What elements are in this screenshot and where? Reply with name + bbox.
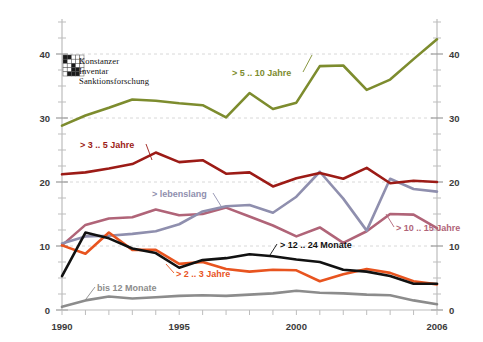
y-axis-left-label-10: 10 <box>39 241 50 252</box>
series-label-bis-12-monate: bis 12 Monate <box>97 283 157 293</box>
logo-cell <box>63 68 67 72</box>
series-leader-10-15-jahre <box>386 214 394 227</box>
y-axis-left-label-0: 0 <box>45 305 50 316</box>
logo-cell <box>71 63 75 67</box>
logo-cell <box>63 72 67 76</box>
logo-line-1: Konstanzer <box>79 56 119 66</box>
logo-cell <box>67 59 71 63</box>
y-axis-right-label-0: 0 <box>449 305 454 316</box>
y-axis-right-label-10: 10 <box>449 241 460 252</box>
series-line-lebenslang <box>62 172 437 244</box>
x-axis-label-1995: 1995 <box>169 321 191 332</box>
series-leader-5-10-jahre <box>303 55 312 72</box>
x-axis-label-2006: 2006 <box>426 321 447 332</box>
logo-cell <box>67 55 71 59</box>
series-leader-lebenslang <box>213 193 221 206</box>
logo-cell <box>67 68 71 72</box>
logo-cell <box>71 59 75 63</box>
series-leader-12-24-monate <box>270 244 277 255</box>
y-axis-left-label-20: 20 <box>39 177 50 188</box>
series-line-bis-12-monate <box>62 291 437 307</box>
logo-line-3: Sanktionsforschung <box>79 76 150 86</box>
series-label-12-24-monate: > 12 .. 24 Monate <box>280 240 352 250</box>
x-axis-label-1990: 1990 <box>51 321 72 332</box>
series-annotations: > 5 .. 10 Jahre> 3 .. 5 Jahre> lebenslan… <box>80 68 460 293</box>
kis-logo: Konstanzer Inventar Sanktionsforschung <box>63 55 150 86</box>
series-line-2-3-jahre <box>62 233 437 285</box>
logo-cell <box>71 68 75 72</box>
series-leader-bis-12-monate <box>86 287 95 299</box>
series-label-lebenslang: > lebenslang <box>152 189 207 199</box>
logo-line-2: Inventar <box>79 66 108 76</box>
chart-container: 010203040 010203040 1990199520002006 > 5… <box>0 0 483 342</box>
y-axis-right-label-20: 20 <box>449 177 460 188</box>
y-axis-left-label-40: 40 <box>39 49 50 60</box>
series-label-10-15-jahre: > 10 .. 15 Jahre <box>396 223 460 233</box>
x-axis-label-2000: 2000 <box>286 321 307 332</box>
logo-cell <box>67 63 71 67</box>
y-axis-left-labels: 010203040 <box>39 49 50 316</box>
series-leader-2-3-jahre <box>166 264 174 273</box>
y-axis-right-label-40: 40 <box>449 49 460 60</box>
y-axis-left-label-30: 30 <box>39 113 50 124</box>
x-axis-labels: 1990199520002006 <box>51 321 447 332</box>
logo-cell <box>63 63 67 67</box>
logo-cell <box>67 72 71 76</box>
y-axis-right-label-30: 30 <box>449 113 460 124</box>
logo-cell <box>71 72 75 76</box>
series-label-5-10-jahre: > 5 .. 10 Jahre <box>232 68 291 78</box>
series-label-3-5-jahre: > 3 .. 5 Jahre <box>80 140 134 150</box>
logo-cell <box>63 59 67 63</box>
y-axis-right-labels: 010203040 <box>449 49 460 316</box>
series-line-3-5-jahre <box>62 153 437 187</box>
logo-cell <box>71 55 75 59</box>
series-label-2-3-jahre: > 2 .. 3 Jahre <box>176 269 230 279</box>
line-chart-svg: 010203040 010203040 1990199520002006 > 5… <box>0 0 483 342</box>
logo-cell <box>63 55 67 59</box>
